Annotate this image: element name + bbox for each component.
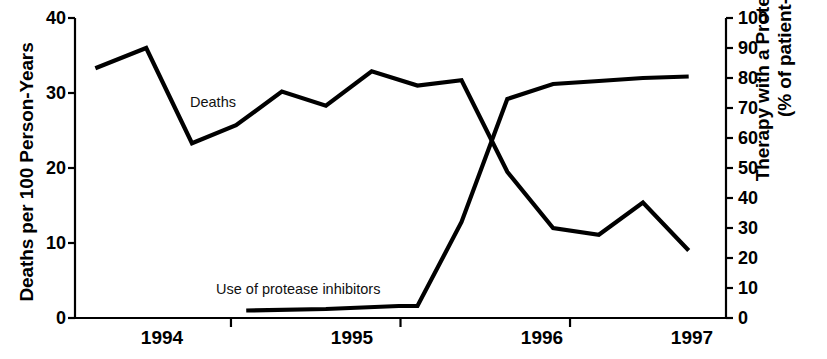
figure-container: Deaths per 100 Person-Years Therapy with… [0, 0, 827, 359]
axis-lines [75, 18, 726, 318]
plot-area [0, 0, 827, 359]
series-line-deaths [95, 48, 688, 251]
series-line-protease [246, 77, 688, 311]
x-ticks [231, 318, 570, 327]
